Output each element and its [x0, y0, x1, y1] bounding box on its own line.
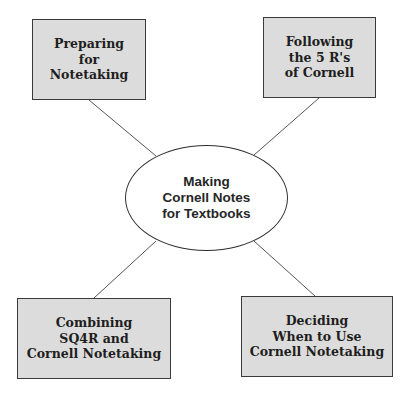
node-combining-sq4r: Combining SQ4R and Cornell Notetaking: [17, 298, 171, 379]
connector-bottom-right: [254, 241, 315, 296]
central-topic-ellipse: Making Cornell Notes for Textbooks: [125, 145, 288, 251]
concept-map: Preparing for Notetaking Following the 5…: [0, 0, 416, 403]
node-label-line: Following: [286, 34, 354, 50]
node-label-line: Preparing: [54, 36, 124, 52]
node-label-line: Cornell Notetaking: [27, 346, 161, 362]
node-label-line: Combining: [56, 315, 133, 331]
node-label-line: When to Use: [273, 329, 362, 345]
node-deciding-when-to-use: Deciding When to Use Cornell Notetaking: [241, 296, 393, 377]
central-topic-line: Making: [183, 174, 230, 190]
connector-top-left: [89, 100, 156, 156]
node-label-line: the 5 R's: [289, 50, 350, 66]
node-label-line: Notetaking: [50, 67, 129, 83]
central-topic-line: Cornell Notes: [163, 190, 251, 206]
node-label-line: Cornell Notetaking: [250, 344, 384, 360]
node-label-line: Deciding: [286, 313, 348, 329]
node-label-line: of Cornell: [285, 65, 354, 81]
connector-top-right: [254, 98, 319, 155]
connector-bottom-left: [94, 241, 156, 298]
node-label-line: SQ4R and: [59, 331, 128, 347]
central-topic-line: for Textbooks: [162, 206, 250, 222]
node-preparing-for-notetaking: Preparing for Notetaking: [32, 19, 146, 100]
node-label-line: for: [79, 52, 99, 68]
node-following-the-5-rs: Following the 5 R's of Cornell: [263, 17, 376, 98]
